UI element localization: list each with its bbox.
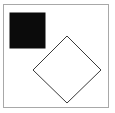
figure-root: Geometric shapes figure White rectangula…	[0, 0, 115, 113]
black-square-shape	[10, 13, 45, 48]
figure-canvas	[0, 0, 115, 113]
